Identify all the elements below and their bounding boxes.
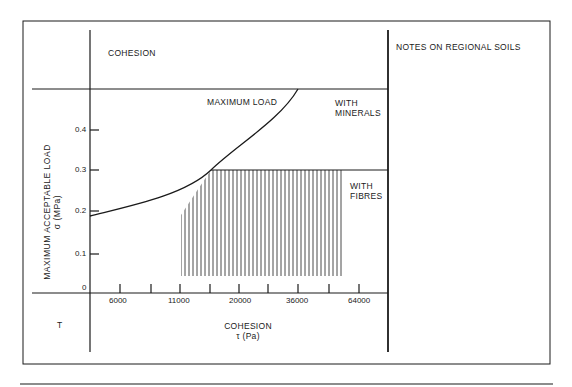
fibres-label-line2: FIBRES xyxy=(350,191,383,201)
x-tick-64000: 64000 xyxy=(348,296,370,305)
y-tick-0: 0 xyxy=(82,283,86,292)
x-axis-label-line2: τ (Pa) xyxy=(208,331,288,341)
y-axis-label-line1: MAXIMUM ACCEPTABLE LOAD xyxy=(42,132,52,292)
y-ticks xyxy=(90,130,99,254)
minerals-label-line2: MINERALS xyxy=(335,108,381,118)
notes-header: NOTES ON REGIONAL SOILS xyxy=(396,42,521,52)
cohesion-header: COHESION xyxy=(108,48,156,58)
minerals-label-line1: WITH xyxy=(335,98,381,108)
y-tick-0.3: 0.3 xyxy=(75,165,86,174)
x-axis-label-line1: COHESION xyxy=(208,321,288,331)
x-tick-36000: 36000 xyxy=(286,296,308,305)
y-tick-0.2: 0.2 xyxy=(75,206,86,215)
fibres-label: WITH FIBRES xyxy=(350,181,383,201)
y-tick-0.1: 0.1 xyxy=(75,249,86,258)
y-axis-label-line2: σ (MPa) xyxy=(52,132,62,292)
y-tick-0.4: 0.4 xyxy=(75,125,86,134)
fibres-hatch xyxy=(181,165,343,276)
maximum-load-label: MAXIMUM LOAD xyxy=(207,97,277,107)
y-axis-label: MAXIMUM ACCEPTABLE LOAD σ (MPa) xyxy=(42,132,62,292)
x-tick-11000: 11000 xyxy=(168,296,190,305)
fibres-label-line1: WITH xyxy=(350,181,383,191)
x-tick-20000: 20000 xyxy=(229,296,251,305)
x-axis-label: COHESION τ (Pa) xyxy=(208,321,288,341)
minerals-label: WITH MINERALS xyxy=(335,98,381,118)
x-tick-6000: 6000 xyxy=(109,296,127,305)
t-cell-label: T xyxy=(57,320,63,330)
x-ticks xyxy=(120,284,359,293)
